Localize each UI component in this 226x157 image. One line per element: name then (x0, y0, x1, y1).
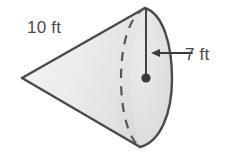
slant-height-label: 10 ft (27, 18, 61, 37)
radius-label: 7 ft (185, 45, 210, 64)
base-center-dot (141, 73, 150, 82)
cone-diagram: 10 ft 7 ft (0, 0, 226, 157)
